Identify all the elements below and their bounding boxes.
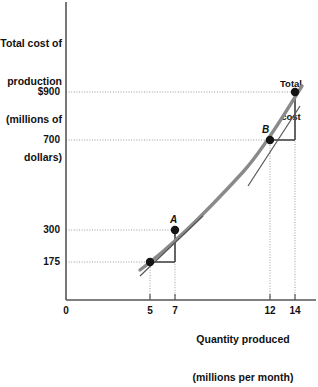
- data-point-b: [266, 136, 274, 144]
- total-cost-curve: [140, 86, 302, 270]
- x-tick-marks: [150, 294, 295, 300]
- data-point-5-175: [146, 258, 154, 266]
- gridlines-group: [66, 92, 295, 300]
- data-point-14-900: [291, 88, 299, 96]
- x-axis-title-line-2: (millions per month): [168, 371, 318, 384]
- tangent-line-at-b: [248, 106, 300, 186]
- tangent-line-at-a: [140, 216, 203, 276]
- data-point-a: [171, 226, 179, 234]
